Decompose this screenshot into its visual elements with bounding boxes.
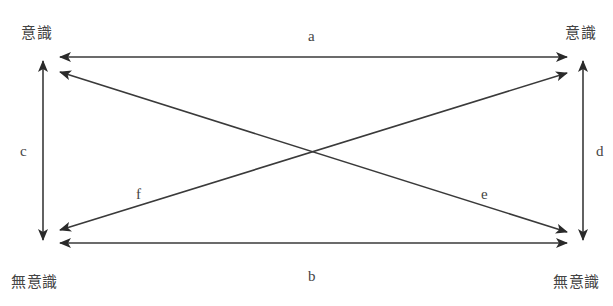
node-top-right-conscious: 意識 (565, 21, 596, 42)
node-bottom-right-unconscious: 無意識 (553, 270, 600, 291)
edge-label-c: c (20, 143, 27, 160)
edge-label-e: e (481, 186, 488, 203)
edge-label-b: b (308, 268, 316, 285)
edge-label-f: f (136, 186, 141, 203)
diagram-canvas (0, 0, 613, 306)
edge-label-d: d (596, 143, 604, 160)
node-bottom-left-unconscious: 無意識 (11, 270, 58, 291)
edge-label-a: a (308, 28, 315, 45)
node-top-left-conscious: 意識 (21, 21, 52, 42)
